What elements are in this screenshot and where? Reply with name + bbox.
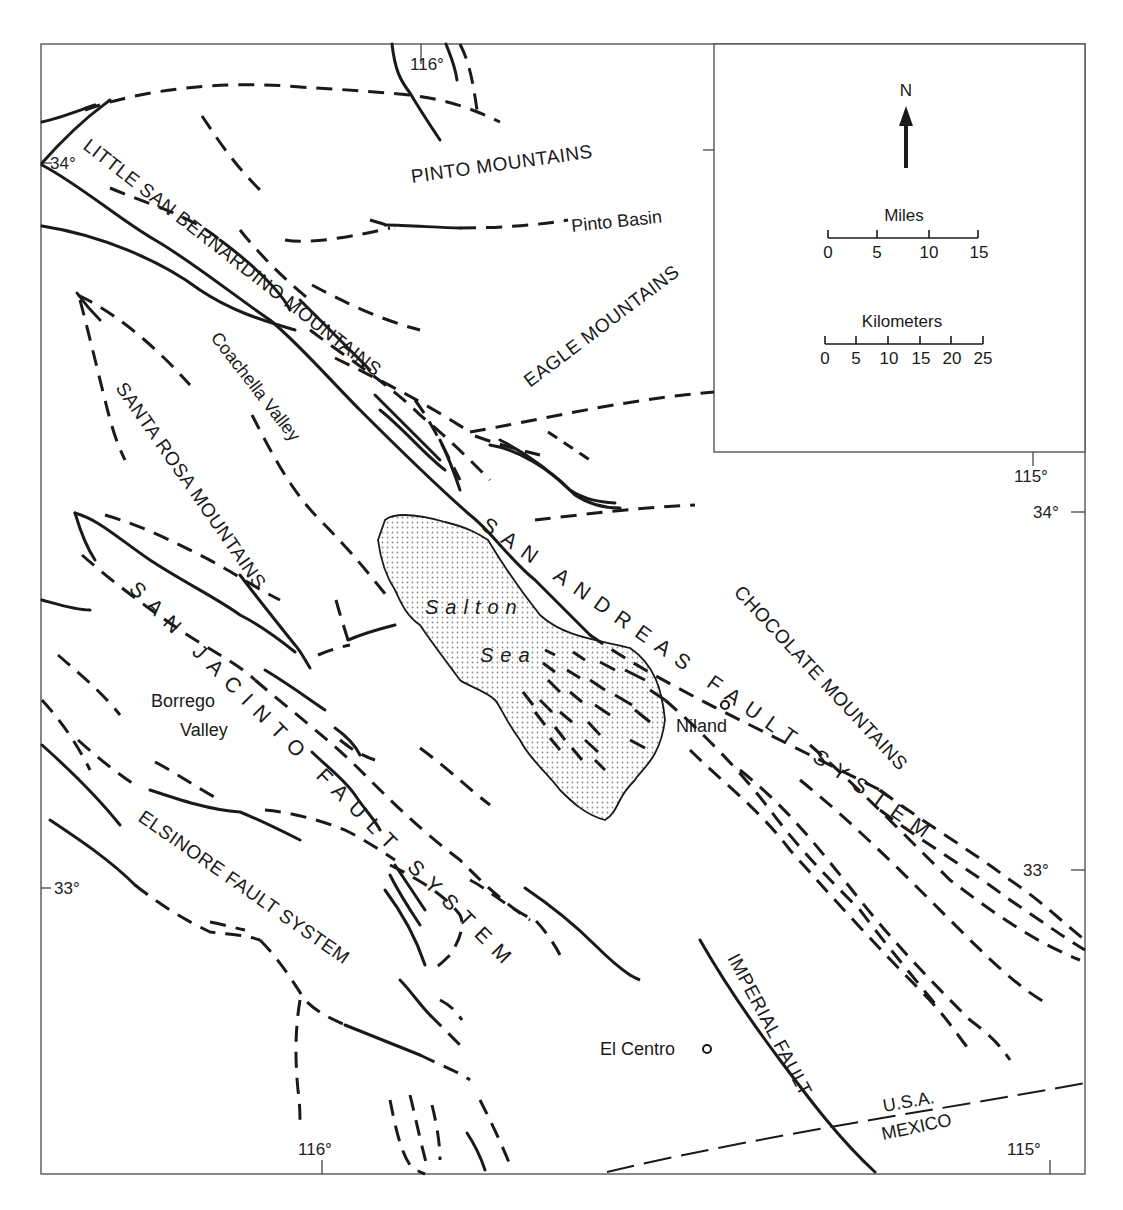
- coachella-valley-label: Coachella Valley: [207, 328, 304, 445]
- el-centro-label: El Centro: [600, 1039, 675, 1059]
- niland-label: Niland: [676, 716, 727, 736]
- sea-label: Sea: [480, 644, 537, 666]
- lon-116-bottom-label: 116°: [298, 1140, 332, 1159]
- north-label: N: [900, 81, 912, 100]
- km-scale-title: Kilometers: [862, 312, 942, 331]
- pinto-mountains-label: PINTO MOUNTAINS: [410, 141, 594, 187]
- lat-33-left-label: 33°: [54, 879, 80, 898]
- legend-box: N Miles 0 5 10 15 Kilometers 0: [714, 44, 1085, 452]
- km-tick-0: 0: [820, 349, 829, 368]
- miles-tick-5: 5: [872, 243, 881, 262]
- eagle-mountains-label: EAGLE MOUNTAINS: [520, 261, 683, 391]
- borrego-label: Borrego: [151, 691, 215, 711]
- miles-tick-0: 0: [823, 243, 832, 262]
- salton-label: Salton: [425, 596, 524, 618]
- miles-tick-15: 15: [970, 243, 989, 262]
- lon-116-top-label: 116°: [410, 55, 444, 74]
- lon-115-bottom-label: 115°: [1007, 1140, 1041, 1159]
- miles-scale-title: Miles: [884, 206, 924, 225]
- km-tick-10: 10: [880, 349, 899, 368]
- lat-33-right-label: 33°: [1023, 861, 1049, 880]
- lat-34-right-label: 34°: [1033, 503, 1059, 522]
- miles-tick-10: 10: [920, 243, 939, 262]
- fault-map: N Miles 0 5 10 15 Kilometers 0: [0, 0, 1123, 1210]
- imperial-fault-label: IMPERIAL FAULT: [723, 950, 816, 1099]
- usa-label: U.S.A.: [881, 1087, 936, 1116]
- km-tick-25: 25: [974, 349, 993, 368]
- santa-rosa-mountains-label: SANTA ROSA MOUNTAINS: [112, 378, 271, 592]
- km-tick-15: 15: [912, 349, 931, 368]
- valley-label: Valley: [180, 720, 228, 740]
- pinto-basin-label: Pinto Basin: [570, 207, 663, 236]
- lon-115-top-label: 115°: [1014, 467, 1048, 486]
- km-tick-5: 5: [851, 349, 860, 368]
- km-tick-20: 20: [943, 349, 962, 368]
- el-centro-marker: [703, 1045, 711, 1053]
- elsinore-fault-system-label: ELSINORE FAULT SYSTEM: [135, 806, 354, 968]
